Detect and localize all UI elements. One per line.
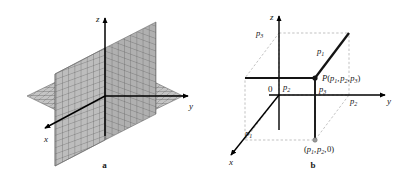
- point-P-marker: [312, 75, 317, 80]
- reference-box: [245, 33, 349, 140]
- vertical-plane-right: [105, 22, 156, 140]
- point-location-diagram: z y x 0 p3 p1 p2 p2 p1 p3 P(p1, p2, p3) …: [209, 0, 417, 174]
- panel-a: z y x a: [0, 0, 209, 174]
- panel-b-caption: b: [209, 160, 417, 170]
- segment-p1-label: p1: [316, 46, 324, 57]
- axes-group-b: [231, 16, 385, 155]
- z-axis-label: z: [95, 14, 100, 24]
- z-axis-label: z: [269, 12, 274, 22]
- point-P-label: P(p1, p2, p3): [321, 73, 360, 84]
- origin-label: 0: [268, 84, 273, 94]
- y-axis-label: y: [188, 101, 193, 111]
- point-foot-marker: [313, 138, 317, 142]
- figure-root: z y x a: [0, 0, 417, 174]
- coordinate-planes-diagram: z y x: [0, 0, 209, 174]
- z-intercept-label: p3: [255, 28, 263, 39]
- y-intercept-label: p2: [349, 96, 357, 107]
- segment-p2-label: p2: [282, 82, 290, 93]
- segment-p3-label: p3: [318, 84, 326, 95]
- y-axis-label: y: [386, 96, 391, 106]
- panel-b: z y x 0 p3 p1 p2 p2 p1 p3 P(p1, p2, p3) …: [209, 0, 417, 174]
- panel-a-caption: a: [0, 160, 209, 170]
- x-axis-label: x: [43, 134, 48, 144]
- x-axis-line: [231, 95, 279, 155]
- foot-point-label: (p1, p2, 0): [304, 144, 334, 155]
- vertical-plane-left: [55, 48, 105, 166]
- path-to-point: [245, 33, 349, 140]
